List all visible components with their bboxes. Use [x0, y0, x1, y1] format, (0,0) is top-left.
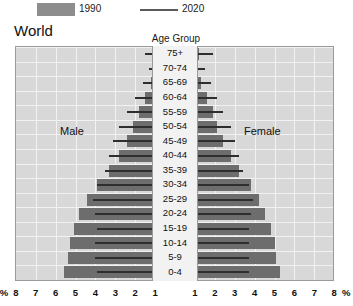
x-tick-left: 8: [9, 287, 23, 299]
age-group-label: 45-49: [153, 134, 197, 148]
x-tick-right: 4: [248, 287, 262, 299]
x-tick-left: 3: [108, 287, 122, 299]
age-group-label: 15-19: [153, 221, 197, 235]
x-tick-right: 7: [307, 287, 321, 299]
age-group-label: 20-24: [153, 206, 197, 220]
x-tick-left: 6: [49, 287, 63, 299]
age-group-label: 0-4: [153, 265, 197, 279]
x-tick-left: 1: [148, 287, 162, 299]
legend-label-2020: 2020: [182, 2, 204, 16]
x-tick-right: 1: [188, 287, 202, 299]
legend-label-1990: 1990: [79, 2, 101, 16]
age-group-label: 30-34: [153, 177, 197, 191]
side-label-female: Female: [244, 125, 281, 137]
x-tick-right: 3: [228, 287, 242, 299]
age-group-label-column: 75+70-7465-6960-6455-5950-5445-4940-4435…: [152, 46, 198, 281]
x-tick-left: 4: [88, 287, 102, 299]
age-group-label: 55-59: [153, 105, 197, 119]
age-group-label: 25-29: [153, 192, 197, 206]
age-group-label: 40-44: [153, 148, 197, 162]
age-group-header: Age Group: [140, 32, 212, 45]
side-label-male: Male: [60, 125, 84, 137]
age-group-label: 65-69: [153, 75, 197, 89]
legend-line-2020: [140, 9, 178, 11]
chart-title: World: [14, 22, 53, 40]
age-group-label: 70-74: [153, 61, 197, 75]
x-tick-right: 6: [287, 287, 301, 299]
age-group-label: 60-64: [153, 90, 197, 104]
x-tick-left: 2: [128, 287, 142, 299]
x-tick-right: 5: [268, 287, 282, 299]
age-group-label: 10-14: [153, 236, 197, 250]
age-group-label: 50-54: [153, 119, 197, 133]
age-group-label: 75+: [153, 46, 197, 60]
x-tick-right: %: [339, 287, 353, 299]
x-axis: %8765432112345678%: [0, 284, 350, 304]
x-tick-left: 7: [29, 287, 43, 299]
x-tick-right: 2: [208, 287, 222, 299]
age-group-label: 35-39: [153, 163, 197, 177]
x-tick-left: 5: [69, 287, 83, 299]
chart-legend: 1990 2020: [0, 0, 350, 22]
legend-swatch-1990: [37, 3, 75, 16]
age-group-label: 5-9: [153, 250, 197, 264]
